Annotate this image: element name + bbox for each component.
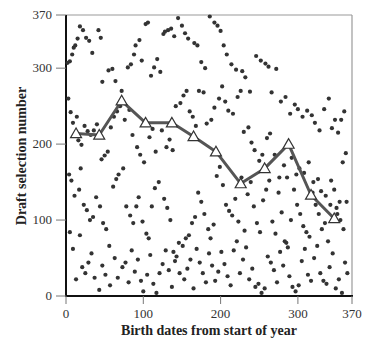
data-point: [215, 24, 219, 28]
data-point: [113, 256, 117, 260]
data-point: [191, 115, 195, 119]
data-point: [121, 166, 125, 170]
data-point: [82, 124, 86, 128]
data-point: [82, 203, 86, 207]
x-tick-label: 370: [342, 306, 362, 321]
data-point: [270, 219, 274, 223]
data-point: [331, 251, 335, 255]
x-tick-label: 300: [288, 306, 308, 321]
data-point: [71, 121, 75, 125]
data-point: [178, 101, 182, 105]
data-point: [91, 215, 95, 219]
data-point: [254, 54, 258, 58]
data-point: [154, 291, 158, 295]
data-point: [239, 89, 243, 93]
triangle-marker-icon: [283, 139, 294, 149]
data-point: [157, 271, 161, 275]
draft-lottery-chart: 0100200300370 0100200300370 Birth dates …: [0, 0, 369, 354]
data-point: [167, 137, 171, 141]
data-point: [287, 274, 291, 278]
data-point: [222, 262, 226, 266]
data-point: [137, 195, 141, 199]
data-point: [307, 160, 311, 164]
data-point: [336, 131, 340, 135]
data-point: [294, 172, 298, 176]
data-point: [259, 58, 263, 62]
data-point: [184, 236, 188, 240]
data-point: [198, 260, 202, 264]
data-point: [190, 221, 194, 225]
data-point: [265, 136, 269, 140]
data-point: [268, 131, 272, 135]
data-point: [168, 218, 172, 222]
data-point: [249, 180, 253, 184]
data-point: [120, 89, 124, 93]
y-tick-label: 200: [33, 136, 53, 151]
data-point: [282, 163, 286, 167]
data-point: [184, 89, 188, 93]
data-point: [266, 254, 270, 258]
data-point: [104, 227, 108, 231]
x-axis-title: Birth dates from start of year: [121, 323, 297, 338]
data-point: [157, 180, 161, 184]
data-point: [316, 177, 320, 181]
data-point: [215, 174, 219, 178]
data-point: [188, 109, 192, 113]
data-point: [94, 195, 98, 199]
data-point: [318, 271, 322, 275]
data-point: [229, 62, 233, 66]
data-point: [258, 230, 262, 234]
data-point: [328, 203, 332, 207]
data-point: [235, 239, 239, 243]
data-point: [259, 291, 263, 295]
data-point: [322, 107, 326, 111]
data-point: [171, 148, 175, 152]
data-point: [151, 282, 155, 286]
data-point: [196, 191, 200, 195]
data-point: [99, 36, 103, 40]
y-tick-label: 0: [46, 288, 53, 303]
data-point: [193, 215, 197, 219]
data-point: [225, 52, 229, 56]
data-point: [301, 224, 305, 228]
data-point: [83, 271, 87, 275]
data-point: [341, 160, 345, 164]
data-point: [133, 43, 137, 47]
data-point: [183, 31, 187, 35]
data-point: [98, 204, 102, 208]
data-point: [310, 113, 314, 117]
data-point: [276, 191, 280, 195]
data-point: [249, 140, 253, 144]
data-point: [147, 135, 151, 139]
data-point: [289, 218, 293, 222]
data-point: [142, 160, 146, 164]
data-point: [273, 232, 277, 236]
data-point: [130, 248, 134, 252]
data-point: [106, 68, 110, 72]
data-point: [304, 230, 308, 234]
data-point: [280, 210, 284, 214]
data-point: [327, 265, 331, 269]
data-point: [300, 259, 304, 263]
data-point: [145, 273, 149, 277]
data-point: [191, 286, 195, 290]
data-point: [232, 248, 236, 252]
data-point: [206, 227, 210, 231]
data-point: [160, 128, 164, 132]
data-point: [114, 177, 118, 181]
data-point: [71, 247, 75, 251]
data-point: [234, 68, 238, 72]
data-point: [208, 14, 212, 18]
data-point: [286, 245, 290, 249]
data-point: [169, 27, 173, 31]
data-point: [201, 90, 205, 94]
y-axis-ticks: 0100200300370: [33, 7, 67, 303]
triangle-marker-icon: [116, 95, 127, 105]
data-point: [111, 185, 115, 189]
data-point: [297, 283, 301, 287]
data-point: [90, 51, 94, 55]
data-point: [68, 59, 72, 63]
data-point: [327, 96, 331, 100]
data-point: [97, 288, 101, 292]
data-point: [218, 29, 222, 33]
